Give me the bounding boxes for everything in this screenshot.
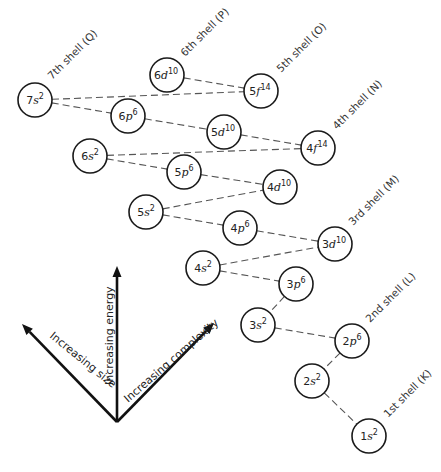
orbital-5d: 5d10	[207, 115, 241, 149]
orbital-6d: 6d10	[150, 58, 184, 92]
orbital-4f: 4f14	[301, 131, 335, 165]
orbital-2p: 2p6	[335, 324, 369, 358]
trend-arrows: Increasing energy Increasing size Increa…	[22, 266, 221, 422]
shell-label: 1st shell (K)	[381, 367, 434, 420]
connector-5d-4f	[241, 135, 301, 145]
orbital-5f: 5f14	[244, 74, 278, 108]
orbital-4s: 4s2	[186, 251, 220, 285]
connector-6p-5d	[145, 119, 207, 129]
connector-2s-1s	[324, 393, 357, 424]
connector-6d-5f	[184, 78, 244, 88]
connector-3p-3s	[270, 296, 285, 312]
increasing-complexity-label: Increasing complexity	[121, 316, 221, 405]
connector-3s-2p	[275, 328, 335, 338]
orbital-7s: 7s2	[18, 83, 52, 117]
orbital-nodes: 7s26d106p65f146s25d105p64f145s24d104p63d…	[18, 58, 386, 453]
orbital-1s: 1s2	[352, 419, 386, 453]
connector-5p-4d	[201, 175, 263, 185]
orbital-6p: 6p6	[111, 99, 145, 133]
orbital-4d: 4d10	[263, 170, 297, 204]
connector-4s-3p	[220, 271, 279, 281]
connector-5s-4p	[163, 215, 223, 225]
shell-label: 2nd shell (L)	[363, 270, 418, 325]
connector-6s-5p	[107, 159, 167, 169]
connector-5s-4d	[163, 190, 264, 209]
orbital-6s: 6s2	[73, 139, 107, 173]
orbital-5p: 5p6	[167, 155, 201, 189]
shell-label: 4th shell (N)	[330, 77, 384, 131]
orbital-4p: 4p6	[223, 211, 257, 245]
orbital-3p: 3p6	[279, 267, 313, 301]
shell-label: 7th shell (Q)	[45, 27, 99, 81]
orbital-5s: 5s2	[129, 195, 163, 229]
connector-4s-3d	[220, 247, 319, 265]
shell-label: 3rd shell (M)	[346, 172, 401, 227]
connector-7s-5f	[52, 92, 244, 100]
orbital-2s: 2s2	[295, 364, 329, 398]
orbital-filling-diagram: 7s26d106p65f146s25d105p64f145s24d104p63d…	[0, 0, 441, 472]
orbital-3s: 3s2	[241, 308, 275, 342]
connector-6s-4f	[107, 149, 301, 156]
connector-7s-6p	[52, 103, 111, 113]
energy-arrow-head-icon	[113, 266, 122, 277]
shell-label: 5th shell (O)	[274, 20, 328, 74]
shell-label: 6th shell (P)	[178, 5, 231, 58]
orbital-3d: 3d10	[318, 227, 352, 261]
connector-2p-2s	[324, 353, 340, 369]
connector-4p-3d	[257, 231, 318, 241]
